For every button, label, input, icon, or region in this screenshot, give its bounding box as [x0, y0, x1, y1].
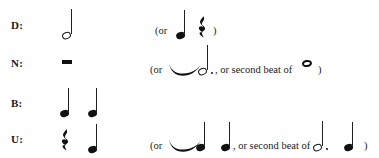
alt-open-paren-d: (or	[155, 26, 167, 37]
alt-close-paren-d: )	[213, 26, 217, 37]
quarter-rest-glyph	[59, 128, 72, 156]
music-notation-figure: D: (or ) N: (or	[0, 0, 379, 158]
alt-middle-text-u: , or second beat of	[233, 141, 310, 152]
row-label-d: D:	[11, 20, 23, 31]
half-rest-glyph	[62, 60, 72, 64]
notation-row-d: D: (or )	[0, 6, 379, 44]
alt-close-paren-u: )	[364, 141, 368, 152]
notation-row-u: U: (or , or second beat of	[0, 120, 379, 158]
alt-close-paren-n: )	[318, 65, 322, 76]
alt-middle-text-n: , or second beat of	[215, 65, 292, 76]
alt-open-paren-u: (or	[150, 141, 162, 152]
row-label-b: B:	[11, 98, 22, 109]
quarter-rest-glyph	[196, 15, 209, 43]
row-label-n: N:	[11, 58, 23, 69]
notation-row-b: B:	[0, 84, 379, 122]
row-label-u: U:	[11, 134, 23, 145]
alt-open-paren-n: (or	[150, 65, 162, 76]
notation-row-n: N: (or , or second beat of )	[0, 44, 379, 82]
